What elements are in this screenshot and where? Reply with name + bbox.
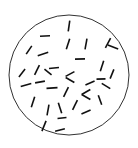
circle-rod-diagram	[0, 0, 138, 148]
rod-segment	[49, 67, 59, 68]
rod-segment	[40, 36, 50, 37]
rod-segment	[58, 118, 67, 119]
figure-container	[0, 0, 138, 148]
rod-segment	[47, 88, 58, 89]
